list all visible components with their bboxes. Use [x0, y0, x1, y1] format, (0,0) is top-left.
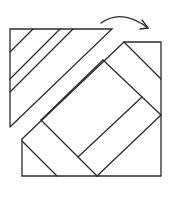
fold-arrow-icon [101, 17, 148, 29]
triangle-stripe [10, 29, 73, 92]
inner-rectangle-edge [78, 97, 142, 157]
quilt-fold-diagram [0, 0, 172, 199]
triangle-stripe [10, 29, 33, 52]
inner-rectangle-edge [41, 60, 103, 120]
hatched-triangle [10, 29, 112, 127]
triangle-stripe [10, 29, 60, 79]
square-block [22, 42, 161, 176]
